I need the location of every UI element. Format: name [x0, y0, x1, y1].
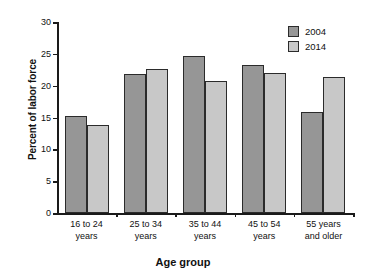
- y-tick-mark: [53, 54, 57, 56]
- x-tick-label: 25 to 34years: [116, 219, 175, 242]
- y-tick-mark: [53, 149, 57, 151]
- y-tick-label: 5: [29, 177, 51, 186]
- bar-2014-1[interactable]: [146, 69, 168, 213]
- x-tick-mark: [116, 213, 118, 217]
- bar-2004-3[interactable]: [242, 65, 264, 213]
- legend-item-2004[interactable]: 2004: [288, 26, 326, 37]
- bar-group: [124, 22, 168, 213]
- y-tick-mark: [53, 22, 57, 24]
- y-tick-label: 30: [29, 18, 51, 27]
- legend-label: 2004: [305, 27, 326, 37]
- bar-2014-4[interactable]: [323, 77, 345, 213]
- y-axis-line: [57, 22, 59, 213]
- bar-group: [242, 22, 286, 213]
- y-tick-label: 0: [29, 209, 51, 218]
- bar-2014-3[interactable]: [264, 73, 286, 213]
- y-tick-mark: [53, 181, 57, 183]
- bar-group: [183, 22, 227, 213]
- legend-swatch-icon: [288, 26, 299, 37]
- x-tick-mark: [294, 213, 296, 217]
- x-axis-line: [57, 213, 353, 215]
- bar-2004-2[interactable]: [183, 56, 205, 213]
- x-tick-label: 16 to 24years: [57, 219, 116, 242]
- x-tick-mark: [175, 213, 177, 217]
- y-tick-mark: [53, 118, 57, 120]
- bar-group: [65, 22, 109, 213]
- x-axis-title: Age group: [0, 256, 366, 268]
- bar-2004-0[interactable]: [65, 116, 87, 213]
- x-tick-label: 35 to 44years: [175, 219, 234, 242]
- x-tick-label: 55 yearsand older: [294, 219, 353, 242]
- bar-2014-0[interactable]: [87, 125, 109, 213]
- y-tick-label: 20: [29, 81, 51, 90]
- chart-legend: 20042014: [288, 26, 326, 56]
- bar-2014-2[interactable]: [205, 81, 227, 213]
- x-tick-mark: [235, 213, 237, 217]
- legend-swatch-icon: [288, 41, 299, 52]
- legend-label: 2014: [305, 42, 326, 52]
- y-tick-mark: [53, 86, 57, 88]
- x-tick-label: 45 to 54years: [235, 219, 294, 242]
- bar-chart: Percent of labor force 051015202530 16 t…: [0, 0, 366, 280]
- x-tick-mark: [353, 213, 355, 217]
- legend-item-2014[interactable]: 2014: [288, 41, 326, 52]
- bar-2004-4[interactable]: [301, 112, 323, 213]
- bar-2004-1[interactable]: [124, 74, 146, 213]
- y-tick-label: 10: [29, 145, 51, 154]
- y-tick-label: 25: [29, 49, 51, 58]
- y-tick-label: 15: [29, 113, 51, 122]
- y-tick-mark: [53, 213, 57, 215]
